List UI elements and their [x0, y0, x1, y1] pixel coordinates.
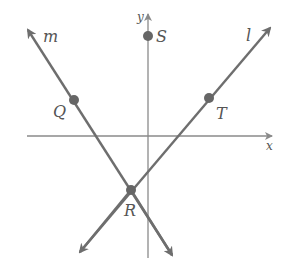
point-r-label: R [123, 201, 136, 220]
point-t-label: T [216, 104, 228, 123]
y-axis-label: y [136, 10, 144, 24]
point-q-label: Q [53, 102, 66, 121]
point-s [143, 31, 153, 41]
coordinate-diagram: y x m l S Q T R [0, 0, 298, 272]
line-m-lower [131, 190, 172, 255]
point-q [69, 95, 79, 105]
line-l-lower [80, 190, 131, 252]
point-s-label: S [156, 27, 167, 46]
point-t [204, 93, 214, 103]
line-m-label: m [43, 27, 58, 46]
line-l-label: l [246, 26, 251, 45]
x-axis-label: x [266, 139, 273, 153]
point-r [126, 185, 136, 195]
